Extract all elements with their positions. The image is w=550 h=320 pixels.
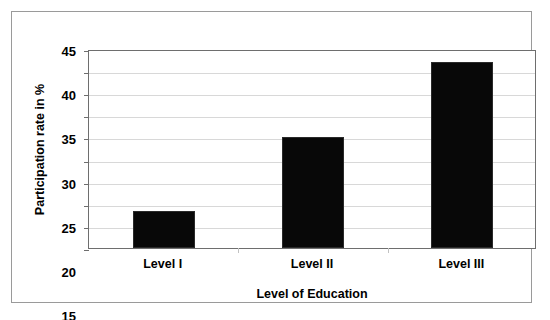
y-axis-tick-label: 15 xyxy=(62,309,76,320)
y-axis-title: Participation rate in % xyxy=(33,50,51,249)
y-axis-tick: 35 xyxy=(84,95,89,96)
x-axis-category-label: Level III xyxy=(387,257,536,271)
plot-area: 051015202530354045 xyxy=(88,50,536,249)
bar xyxy=(282,137,344,248)
y-axis-tick: 30 xyxy=(84,117,89,118)
y-axis-tick: 40 xyxy=(84,73,89,74)
y-axis-tick: 25 xyxy=(84,139,89,140)
y-axis-tick-label: 35 xyxy=(62,132,76,147)
x-axis-category-label: Level I xyxy=(88,257,237,271)
y-axis-tick-label: 40 xyxy=(62,88,76,103)
y-axis-tick: 15 xyxy=(84,184,89,185)
y-axis-tick-label: 20 xyxy=(62,265,76,280)
y-axis-tick: 5 xyxy=(84,228,89,229)
bar xyxy=(431,62,493,248)
y-axis-tick: 0 xyxy=(84,250,89,251)
y-axis-tick: 10 xyxy=(84,206,89,207)
x-axis-category-label: Level II xyxy=(237,257,386,271)
x-axis-title: Level of Education xyxy=(88,287,536,301)
y-axis-tick: 20 xyxy=(84,162,89,163)
bar xyxy=(133,211,195,248)
y-axis-tick-label: 25 xyxy=(62,220,76,235)
y-axis-tick-label: 30 xyxy=(62,176,76,191)
y-axis-tick-label: 45 xyxy=(62,44,76,59)
figure-frame: 051015202530354045 Level ILevel IILevel … xyxy=(11,11,532,303)
chart-screenshot: 051015202530354045 Level ILevel IILevel … xyxy=(0,0,550,320)
x-axis-separator xyxy=(238,248,239,253)
x-axis-separator xyxy=(388,248,389,253)
y-axis-tick: 45 xyxy=(84,51,89,52)
